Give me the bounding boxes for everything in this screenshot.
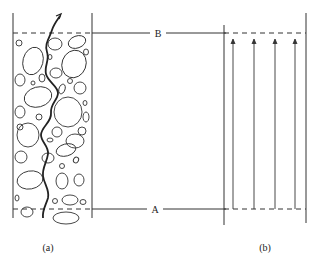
grains — [15, 33, 90, 224]
label-a: A — [151, 204, 159, 215]
label-b: B — [155, 28, 162, 39]
caption-a: (a) — [42, 242, 53, 254]
parallel-flow-lines — [231, 39, 297, 209]
flow-path — [41, 16, 60, 218]
diagram-canvas: B A (a) (b) — [0, 0, 314, 261]
caption-b: (b) — [259, 242, 271, 254]
